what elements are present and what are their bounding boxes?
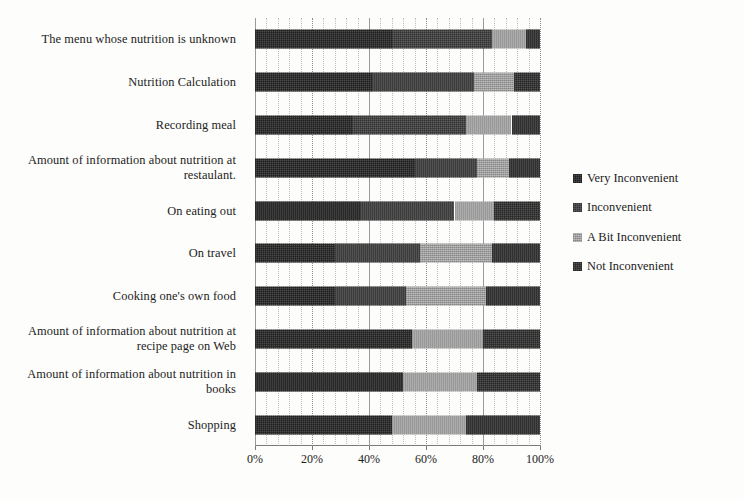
bar-segment[interactable] xyxy=(335,287,406,306)
category-label: On eating out xyxy=(0,203,236,218)
bar-segment[interactable] xyxy=(255,372,403,391)
x-axis-tick-label: 0% xyxy=(247,452,263,467)
bar-segment[interactable] xyxy=(466,116,512,135)
category-label: Nutrition Calculation xyxy=(0,75,236,90)
legend-label: Very Inconvenient xyxy=(587,172,678,184)
bar-segment[interactable] xyxy=(477,158,508,177)
bar-segment[interactable] xyxy=(415,158,478,177)
bar-segment[interactable] xyxy=(372,73,475,92)
bar-segment[interactable] xyxy=(392,30,492,49)
x-axis-tick-label: 20% xyxy=(301,452,323,467)
x-axis-tick-100 xyxy=(540,446,541,450)
legend-item[interactable]: Not Inconvenient xyxy=(573,260,681,272)
category-label: Shopping xyxy=(0,417,236,432)
bar-segment[interactable] xyxy=(412,330,483,349)
bar-segment[interactable] xyxy=(255,244,335,263)
legend-swatch-a-bit-inconvenient xyxy=(573,233,582,242)
bar-segment[interactable] xyxy=(492,30,526,49)
bar-row[interactable] xyxy=(255,158,540,177)
bar-segment[interactable] xyxy=(477,372,540,391)
bar-row[interactable] xyxy=(255,330,540,349)
legend-swatch-very-inconvenient xyxy=(573,174,582,183)
bar-row[interactable] xyxy=(255,244,540,263)
stacked-bar-chart: The menu whose nutrition is unknownNutri… xyxy=(0,0,744,501)
x-axis-tick-80 xyxy=(483,446,484,450)
category-label: Amount of information about nutrition in… xyxy=(0,367,236,397)
legend-item[interactable]: A Bit Inconvenient xyxy=(573,231,681,243)
bar-segment[interactable] xyxy=(492,244,540,263)
bar-segment[interactable] xyxy=(392,415,466,434)
bar-segment[interactable] xyxy=(486,287,540,306)
category-label: Recording meal xyxy=(0,118,236,133)
legend-item[interactable]: Very Inconvenient xyxy=(573,172,681,184)
bar-segment[interactable] xyxy=(255,287,335,306)
bar-segment[interactable] xyxy=(526,30,540,49)
x-axis-tick-40 xyxy=(369,446,370,450)
legend-label: Not Inconvenient xyxy=(587,260,673,272)
bar-row[interactable] xyxy=(255,287,540,306)
bar-segment[interactable] xyxy=(335,244,421,263)
bar-row[interactable] xyxy=(255,73,540,92)
bar-segment[interactable] xyxy=(255,158,415,177)
bar-segment[interactable] xyxy=(494,201,540,220)
bar-segment[interactable] xyxy=(466,415,540,434)
bar-segment[interactable] xyxy=(255,73,372,92)
legend-label: A Bit Inconvenient xyxy=(587,231,681,243)
bar-segment[interactable] xyxy=(509,158,540,177)
bar-segment[interactable] xyxy=(255,116,352,135)
legend-item[interactable]: Inconvenient xyxy=(573,201,681,213)
x-axis-tick-label: 100% xyxy=(526,452,554,467)
legend-swatch-inconvenient xyxy=(573,203,582,212)
bar-segment[interactable] xyxy=(352,116,466,135)
bar-segment[interactable] xyxy=(420,244,491,263)
chart-legend: Very InconvenientInconvenientA Bit Incon… xyxy=(573,172,681,290)
x-axis-tick-label: 80% xyxy=(472,452,494,467)
bar-row[interactable] xyxy=(255,415,540,434)
bar-segment[interactable] xyxy=(255,201,360,220)
bar-row[interactable] xyxy=(255,372,540,391)
bar-segment[interactable] xyxy=(474,73,514,92)
x-axis-tick-labels: 0%20%40%60%80%100% xyxy=(255,452,540,472)
x-axis-tick-label: 60% xyxy=(415,452,437,467)
x-axis-tick-60 xyxy=(426,446,427,450)
category-label: Cooking one's own food xyxy=(0,289,236,304)
bar-segment[interactable] xyxy=(483,330,540,349)
category-label: Amount of information about nutrition at… xyxy=(0,324,236,354)
bar-segment[interactable] xyxy=(255,30,392,49)
category-label: Amount of information about nutrition at… xyxy=(0,153,236,183)
bar-segment[interactable] xyxy=(255,330,412,349)
legend-swatch-not-inconvenient xyxy=(573,262,582,271)
bar-segment[interactable] xyxy=(406,287,486,306)
category-label: On travel xyxy=(0,246,236,261)
bar-segment[interactable] xyxy=(255,415,392,434)
bar-segment[interactable] xyxy=(512,116,541,135)
category-label: The menu whose nutrition is unknown xyxy=(0,32,236,47)
bar-row[interactable] xyxy=(255,30,540,49)
x-axis-line xyxy=(255,445,540,446)
plot-area xyxy=(255,18,540,446)
bar-segment[interactable] xyxy=(514,73,540,92)
bar-segment[interactable] xyxy=(403,372,477,391)
bar-row[interactable] xyxy=(255,116,540,135)
gridline-100 xyxy=(540,18,542,446)
bar-row[interactable] xyxy=(255,201,540,220)
bar-segment[interactable] xyxy=(360,201,454,220)
x-axis-tick-label: 40% xyxy=(358,452,380,467)
x-axis-tick-20 xyxy=(312,446,313,450)
legend-label: Inconvenient xyxy=(587,201,652,213)
bar-segment[interactable] xyxy=(455,201,495,220)
x-axis-tick-0 xyxy=(255,446,256,450)
